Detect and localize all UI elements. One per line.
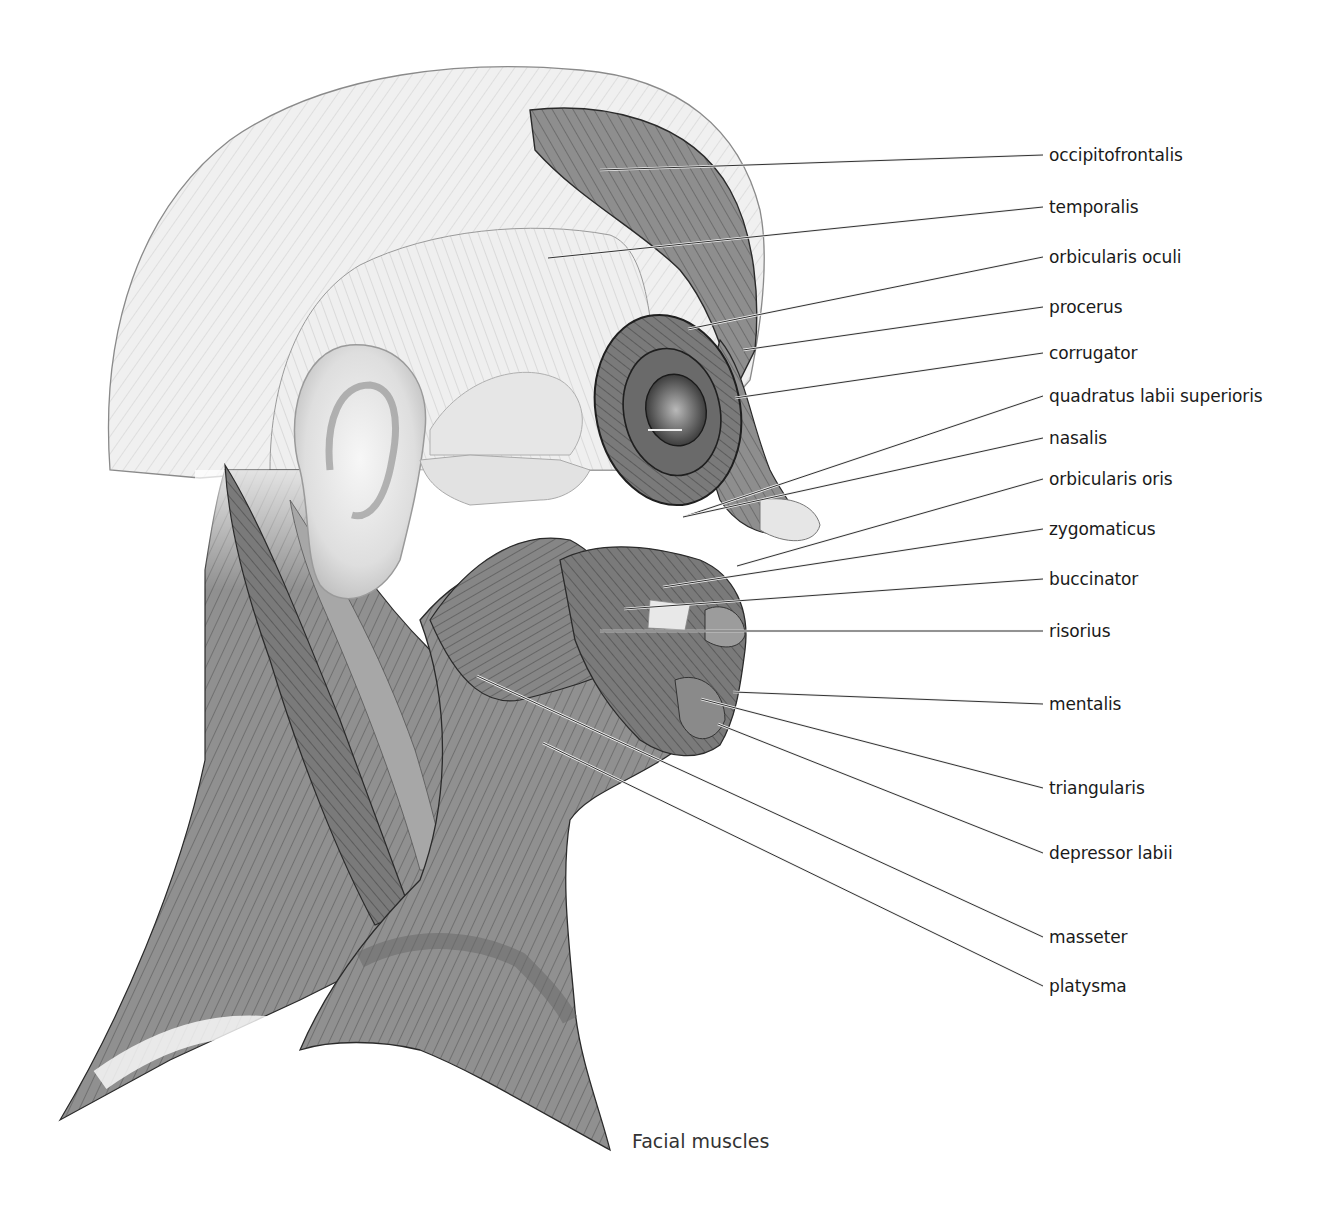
label-procerus: procerus [1049,297,1122,317]
label-orbicularis-oculi: orbicularis oculi [1049,247,1181,267]
label-buccinator: buccinator [1049,569,1138,589]
label-platysma: platysma [1049,976,1127,996]
label-masseter: masseter [1049,927,1127,947]
label-risorius: risorius [1049,621,1111,641]
leader-line [543,743,1043,986]
facial-muscles-illustration [0,0,1340,1226]
leader-line [663,529,1043,587]
label-orbicularis-oris: orbicularis oris [1049,469,1173,489]
leader-line [735,353,1043,398]
figure-caption: Facial muscles [632,1130,769,1152]
label-corrugator: corrugator [1049,343,1137,363]
label-depressor-labii: depressor labii [1049,843,1173,863]
leader-line [743,307,1043,350]
label-temporalis: temporalis [1049,197,1139,217]
label-zygomaticus: zygomaticus [1049,519,1155,539]
label-nasalis: nasalis [1049,428,1107,448]
label-mentalis: mentalis [1049,694,1121,714]
label-occipitofrontalis: occipitofrontalis [1049,145,1183,165]
leader-line [701,699,1043,788]
label-quadratus-labii-superioris: quadratus labii superioris [1049,386,1263,406]
label-triangularis: triangularis [1049,778,1145,798]
leader-line [733,692,1043,704]
leader-line [718,724,1043,853]
